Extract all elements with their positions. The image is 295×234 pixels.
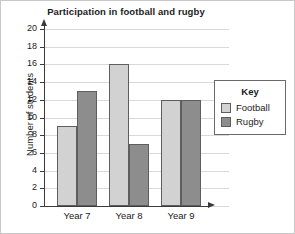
y-axis-tick bbox=[40, 206, 45, 207]
legend-label: Rugby bbox=[236, 116, 263, 127]
y-axis-tick-label: 16 bbox=[9, 58, 37, 68]
legend-swatch-rugby bbox=[221, 117, 231, 127]
bar-year-8-football[interactable] bbox=[109, 64, 129, 206]
x-axis-label-year-8: Year 8 bbox=[99, 210, 159, 221]
arrow-up-icon bbox=[41, 19, 47, 26]
arrow-right-icon bbox=[208, 202, 215, 208]
y-axis-tick-label: 6 bbox=[9, 147, 37, 157]
gridline bbox=[45, 47, 229, 48]
y-axis-tick-label: 4 bbox=[9, 165, 37, 175]
legend-entries: FootballRugby bbox=[221, 102, 279, 127]
bar-year-9-football[interactable] bbox=[161, 100, 181, 206]
legend-item-football[interactable]: Football bbox=[221, 102, 279, 113]
y-axis-tick-label: 20 bbox=[9, 23, 37, 33]
y-axis-tick-label: 18 bbox=[9, 41, 37, 51]
y-axis-line bbox=[44, 25, 45, 207]
legend-swatch-football bbox=[221, 103, 231, 113]
y-axis-tick-label: 14 bbox=[9, 76, 37, 86]
y-axis-tick bbox=[40, 171, 45, 172]
y-axis-tick bbox=[40, 82, 45, 83]
bar-chart-figure: Participation in football and rugby Numb… bbox=[0, 0, 295, 234]
legend-title: Key bbox=[221, 86, 279, 97]
legend-item-rugby[interactable]: Rugby bbox=[221, 116, 279, 127]
legend-key-box: Key FootballRugby bbox=[214, 80, 286, 135]
gridline bbox=[45, 29, 229, 30]
gridline bbox=[45, 82, 229, 83]
y-axis-tick-label: 2 bbox=[9, 182, 37, 192]
y-axis-tick bbox=[40, 118, 45, 119]
x-axis-label-year-9: Year 9 bbox=[151, 210, 211, 221]
legend-label: Football bbox=[236, 102, 270, 113]
y-axis-tick-label: 0 bbox=[9, 200, 37, 210]
y-axis-tick bbox=[40, 100, 45, 101]
y-axis-tick-label: 8 bbox=[9, 129, 37, 139]
gridline bbox=[45, 118, 229, 119]
y-axis-tick bbox=[40, 64, 45, 65]
bar-year-9-rugby[interactable] bbox=[181, 100, 201, 206]
gridline bbox=[45, 100, 229, 101]
y-axis-tick bbox=[40, 188, 45, 189]
y-axis-tick bbox=[40, 153, 45, 154]
gridline bbox=[45, 64, 229, 65]
x-axis-line bbox=[45, 206, 209, 207]
y-axis-tick bbox=[40, 135, 45, 136]
bar-year-7-football[interactable] bbox=[57, 126, 77, 206]
y-axis-tick-label: 10 bbox=[9, 112, 37, 122]
x-axis-label-year-7: Year 7 bbox=[47, 210, 107, 221]
y-axis-tick bbox=[40, 29, 45, 30]
y-axis-tick-label: 12 bbox=[9, 94, 37, 104]
bar-year-7-rugby[interactable] bbox=[77, 91, 97, 206]
chart-title: Participation in football and rugby bbox=[1, 6, 251, 17]
plot-area bbox=[45, 29, 229, 206]
y-axis-tick bbox=[40, 47, 45, 48]
bar-year-8-rugby[interactable] bbox=[129, 144, 149, 206]
